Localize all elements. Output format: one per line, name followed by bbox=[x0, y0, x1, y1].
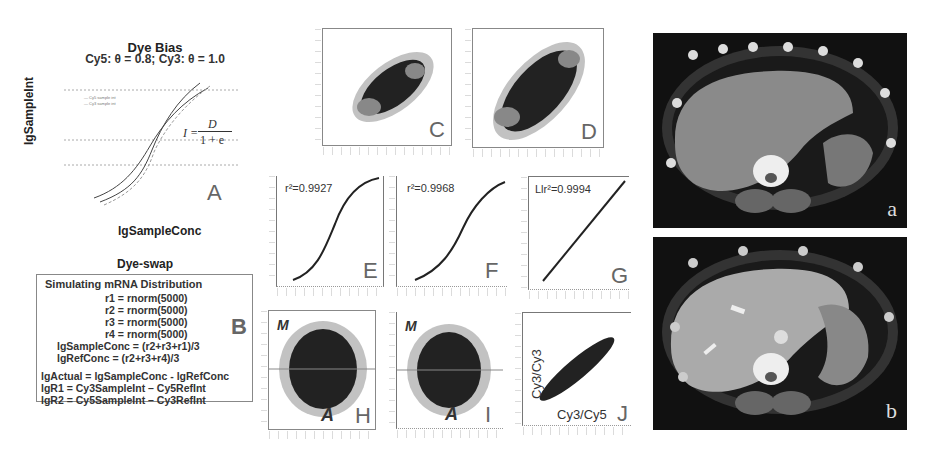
formula-lhs: I = bbox=[183, 126, 198, 141]
code-line: r4 = rnorm(5000) bbox=[105, 329, 188, 341]
stat-f: r²=0.9968 bbox=[407, 182, 454, 194]
formula-numerator: D bbox=[208, 117, 217, 132]
formula-denominator: 1 + e bbox=[200, 133, 224, 148]
code-line: lgR2 = Cy5SampleInt – Cy3RefInt bbox=[41, 395, 206, 407]
code-line: Simulating mRNA Distribution bbox=[45, 279, 202, 291]
code-line: lgR1 = Cy3SampleInt – Cy5RefInt bbox=[41, 383, 206, 395]
panel-letter-f: F bbox=[485, 258, 498, 284]
ma-plot-h: M A H bbox=[268, 310, 376, 430]
ct-image-top: a bbox=[653, 33, 907, 228]
axis-label-j-x: Cy3/Cy5 bbox=[557, 407, 607, 422]
formula-bar bbox=[198, 131, 232, 132]
code-line: lgSampleConc = (r2+r3+r1)/3 bbox=[57, 341, 200, 353]
panel-letter-b: B bbox=[231, 321, 247, 333]
ct-label-a: a bbox=[887, 196, 897, 222]
stat-e: r²=0.9927 bbox=[285, 182, 332, 194]
fit-plot-g: Llr²=0.9994 G bbox=[528, 176, 629, 290]
code-line: lgRefConc = (r2+r3+r4)/3 bbox=[57, 353, 179, 365]
panel-b-heading: Dye-swap bbox=[90, 257, 200, 271]
panel-a-y-label: lgSampleInt bbox=[22, 77, 36, 145]
panel-letter-j: J bbox=[617, 401, 628, 427]
code-box: Simulating mRNA Distribution r1 = rnorm(… bbox=[36, 274, 253, 402]
ma-plot-i: M A I bbox=[396, 312, 503, 429]
ct-label-b: b bbox=[886, 398, 897, 424]
panel-letter-d: D bbox=[581, 119, 597, 145]
scatter-plot-c: C bbox=[322, 28, 452, 146]
fit-plot-f: r²=0.9968 F bbox=[396, 176, 507, 287]
ct-image-bottom: b bbox=[653, 237, 907, 430]
panel-a-x-label: lgSampleConc bbox=[118, 224, 201, 238]
axis-label-a-i: A bbox=[445, 404, 458, 425]
axis-label-j-y: Cy3/Cy3 bbox=[529, 349, 544, 399]
panel-letter-c: C bbox=[429, 117, 445, 143]
panel-letter-a: A bbox=[207, 180, 222, 206]
panel-letter-e: E bbox=[363, 258, 378, 284]
code-line: r2 = rnorm(5000) bbox=[105, 305, 188, 317]
scatter-plot-d: D bbox=[472, 28, 604, 148]
svg-text:— Cy5 sample int: — Cy5 sample int bbox=[84, 95, 116, 100]
stat-g: Llr²=0.9994 bbox=[535, 183, 591, 195]
panel-letter-g: G bbox=[611, 263, 628, 289]
code-line: r1 = rnorm(5000) bbox=[105, 293, 188, 305]
panel-a-subtitle: Cy5: θ = 0.8; Cy3: θ = 1.0 bbox=[70, 52, 240, 66]
axis-label-m-i: M bbox=[405, 318, 417, 334]
panel-letter-h: H bbox=[355, 403, 371, 429]
axis-label-m-h: M bbox=[277, 317, 289, 333]
code-line: lgActual = lgSampleConc - lgRefConc bbox=[41, 371, 229, 383]
panel-letter-i: I bbox=[485, 402, 491, 428]
axis-label-a-h: A bbox=[321, 405, 334, 426]
code-line: r3 = rnorm(5000) bbox=[105, 317, 188, 329]
scatter-plot-j: Cy3/Cy3 Cy3/Cy5 J bbox=[522, 312, 631, 426]
svg-text:— Cy3 sample int: — Cy3 sample int bbox=[84, 101, 116, 106]
fit-plot-e: r²=0.9927 E bbox=[276, 176, 384, 287]
